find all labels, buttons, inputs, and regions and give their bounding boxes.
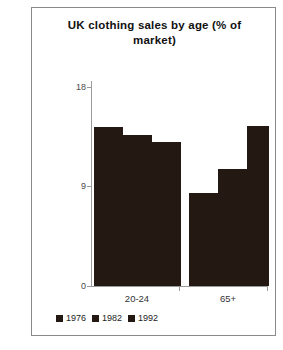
y-tick-label-9: 9	[56, 182, 86, 191]
y-tick-mark-9	[87, 186, 92, 187]
legend-label-1992: 1992	[138, 314, 158, 323]
x-tick-mark-end	[267, 286, 268, 291]
bar-20-24-1992	[152, 142, 181, 286]
bar-65plus-1976	[189, 193, 218, 286]
y-tick-mark-0	[87, 286, 92, 287]
legend-entry-1992: 1992	[128, 314, 158, 323]
legend-swatch-icon-1992	[128, 315, 135, 322]
legend-swatch-icon-1982	[92, 315, 99, 322]
chart-legend: 1976 1982 1992	[56, 314, 256, 323]
legend-entry-1982: 1982	[92, 314, 122, 323]
legend-entry-1976: 1976	[56, 314, 86, 323]
x-axis-label-65plus: 65+	[193, 293, 263, 304]
y-tick-mark-18	[87, 87, 92, 88]
page-caption-cutoff	[4, 341, 204, 350]
x-axis-label-20-24: 20-24	[102, 293, 172, 304]
bar-20-24-1976	[94, 127, 123, 286]
legend-label-1982: 1982	[102, 314, 122, 323]
bar-65plus-1982	[218, 169, 247, 286]
chart-frame: UK clothing sales by age (% of market) 1…	[31, 7, 276, 336]
legend-swatch-icon-1976	[56, 315, 63, 322]
x-tick-mark-divider	[179, 286, 180, 291]
y-tick-label-0: 0	[56, 282, 86, 291]
y-axis-line	[91, 81, 92, 287]
plot-area: 18 9 0 20-24 65+	[32, 8, 277, 337]
bar-65plus-1992	[247, 126, 269, 286]
legend-label-1976: 1976	[66, 314, 86, 323]
y-tick-label-18: 18	[56, 83, 86, 92]
bar-20-24-1982	[123, 135, 152, 286]
